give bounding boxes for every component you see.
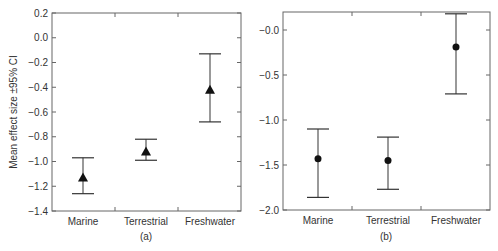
y-tick-label: −0.2 [28, 57, 48, 68]
y-tick-label: 0.0 [34, 32, 48, 43]
figure: Mean effect size ±95% CI 0.20.0−0.2−0.4−… [0, 0, 498, 251]
x-category-label: Freshwater [431, 215, 482, 226]
x-category-label: Marine [68, 216, 99, 227]
plot-frame [283, 12, 490, 210]
x-category-label: Terrestrial [124, 216, 168, 227]
data-point-triangle [205, 85, 215, 94]
y-tick-label: −0.8 [28, 131, 48, 142]
y-tick-label: −1.2 [28, 181, 48, 192]
panel-a: 0.20.0−0.2−0.4−0.6−0.8−1.0−1.2−1.4Marine… [28, 8, 241, 228]
y-tick-label: −0.4 [28, 82, 48, 93]
panel-a-label: (a) [140, 231, 152, 242]
panel-b-label: (b) [380, 231, 392, 242]
y-tick-label: −2.0 [259, 205, 279, 216]
data-point-triangle [141, 147, 151, 156]
y-tick-label: −1.4 [28, 206, 48, 217]
x-category-label: Freshwater [185, 216, 236, 227]
y-tick-label: −1.5 [259, 160, 279, 171]
x-category-label: Terrestrial [366, 215, 410, 226]
data-point-circle [385, 157, 392, 164]
y-tick-label: −1.0 [28, 156, 48, 167]
panel-b: −0.0−0.5−1.0−1.5−2.0MarineTerrestrialFre… [259, 12, 490, 226]
data-point-circle [315, 155, 322, 162]
y-tick-label: −1.0 [259, 115, 279, 126]
y-axis-label: Mean effect size ±95% CI [8, 55, 19, 169]
y-tick-label: −0.5 [259, 70, 279, 81]
y-tick-label: 0.2 [34, 8, 48, 19]
data-point-circle [453, 44, 460, 51]
y-tick-label: −0.6 [28, 107, 48, 118]
x-category-label: Marine [303, 215, 334, 226]
data-point-triangle [78, 173, 88, 182]
y-tick-label: −0.0 [259, 25, 279, 36]
